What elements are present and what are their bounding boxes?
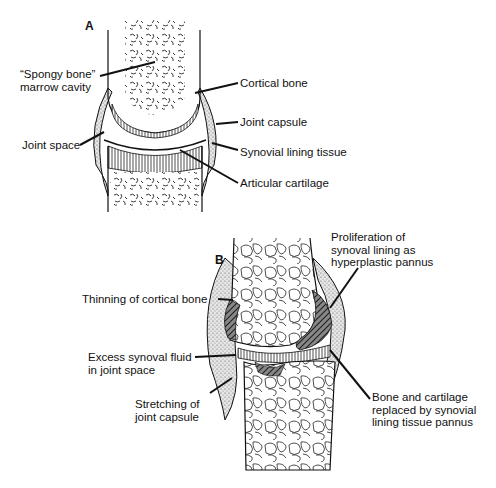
label-proliferation-pannus: Proliferation of synoval lining as hyper… bbox=[331, 231, 433, 269]
label-joint-capsule: Joint capsule bbox=[240, 116, 307, 129]
label-articular-cartilage: Articular cartilage bbox=[240, 177, 329, 190]
label-synovial-lining: Synovial lining tissue bbox=[240, 146, 347, 159]
panel-b-letter: B bbox=[215, 253, 224, 267]
panel-a-illustration bbox=[94, 20, 216, 212]
label-cortical-bone: Cortical bone bbox=[240, 77, 308, 90]
label-stretching-joint-capsule: Stretching of joint capsule bbox=[135, 398, 200, 423]
label-thinning-cortical-bone: Thinning of cortical bone bbox=[82, 293, 207, 306]
label-spongy-bone: “Spongy bone” marrow cavity bbox=[20, 68, 95, 93]
label-joint-space: Joint space bbox=[22, 139, 80, 152]
panel-b-illustration bbox=[207, 238, 345, 470]
label-bone-cartilage-replaced: Bone and cartilage replaced by synovial … bbox=[372, 391, 476, 429]
label-excess-synovial-fluid: Excess synoval fluid in joint space bbox=[88, 351, 192, 376]
panel-a-letter: A bbox=[85, 19, 94, 33]
